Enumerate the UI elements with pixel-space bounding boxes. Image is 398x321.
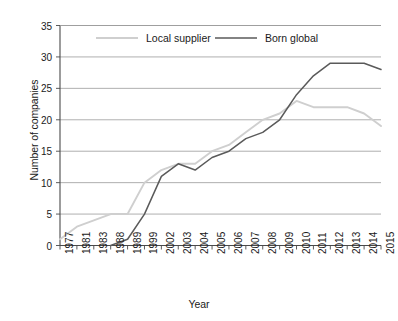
x-tick-label: 1989	[132, 231, 143, 253]
x-tick-label: 1988	[115, 231, 126, 253]
x-tick-label: 2010	[301, 231, 312, 253]
legend-item: Born global	[215, 32, 318, 44]
x-tick-label: 2009	[284, 231, 295, 253]
y-tick-label: 25	[26, 83, 52, 94]
line-chart-figure: Number of companies Year 05101520253035 …	[0, 0, 398, 321]
legend-item: Local supplier	[96, 32, 211, 44]
gridlines	[60, 26, 381, 215]
x-tick-label: 2002	[165, 231, 176, 253]
x-axis-title: Year	[0, 298, 398, 310]
x-tick-label: 2007	[250, 231, 261, 253]
x-tick-label: 1981	[81, 231, 92, 253]
x-tick-label: 1999	[148, 231, 159, 253]
x-tick-label: 2013	[351, 231, 362, 253]
plot-area: Local supplierBorn global	[0, 0, 398, 321]
y-tick-label: 5	[26, 209, 52, 220]
y-tick-label: 30	[26, 51, 52, 62]
y-tick-label: 35	[26, 20, 52, 31]
y-tick-label: 20	[26, 114, 52, 125]
y-tick-label: 10	[26, 177, 52, 188]
legend-label: Born global	[265, 32, 318, 44]
y-tick-label: 0	[26, 240, 52, 251]
y-tick-label: 15	[26, 146, 52, 157]
series-line-local-supplier	[60, 101, 381, 239]
x-tick-label: 2005	[216, 231, 227, 253]
x-tick-label: 2014	[368, 231, 379, 253]
data-series-layer	[60, 63, 381, 245]
x-tick-label: 2015	[385, 231, 396, 253]
x-tick-label: 2003	[182, 231, 193, 253]
axis-lines	[60, 26, 381, 246]
x-tick-label: 2004	[199, 231, 210, 253]
x-tick-label: 1983	[98, 231, 109, 253]
chart-legend: Local supplierBorn global	[96, 32, 318, 44]
x-tick-label: 2011	[317, 232, 328, 254]
x-tick-label: 2006	[233, 231, 244, 253]
legend-label: Local supplier	[146, 32, 211, 44]
x-tick-label: 2008	[267, 231, 278, 253]
x-tick-label: 2012	[334, 231, 345, 253]
x-tick-label: 1977	[64, 231, 75, 253]
series-line-born-global	[111, 63, 381, 245]
